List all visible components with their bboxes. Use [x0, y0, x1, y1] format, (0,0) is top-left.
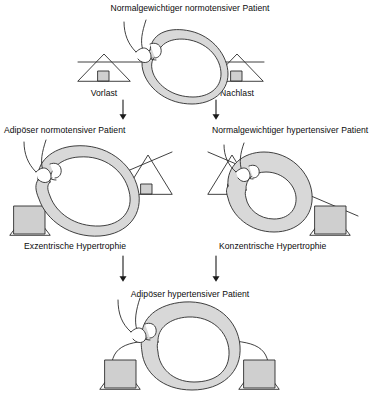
top-left-weight: [98, 71, 109, 81]
bottom-panel-group: [100, 298, 279, 390]
top-right-weight: [231, 71, 242, 81]
middle-left-left-weight: [14, 206, 45, 234]
heart-concentric: [224, 143, 312, 232]
middle-right-panel-group: [208, 143, 358, 235]
top-panel-group: [78, 20, 264, 104]
middle-left-right-weight: [141, 184, 152, 194]
bottom-right-weight: [244, 360, 275, 388]
bottom-left-weight: [105, 360, 136, 388]
diagram-artwork: [0, 0, 379, 401]
middle-left-panel-group: [10, 140, 172, 236]
diagram-canvas: Normalgewichtiger normotensiver Patient …: [0, 0, 379, 401]
middle-right-right-weight: [315, 206, 346, 234]
